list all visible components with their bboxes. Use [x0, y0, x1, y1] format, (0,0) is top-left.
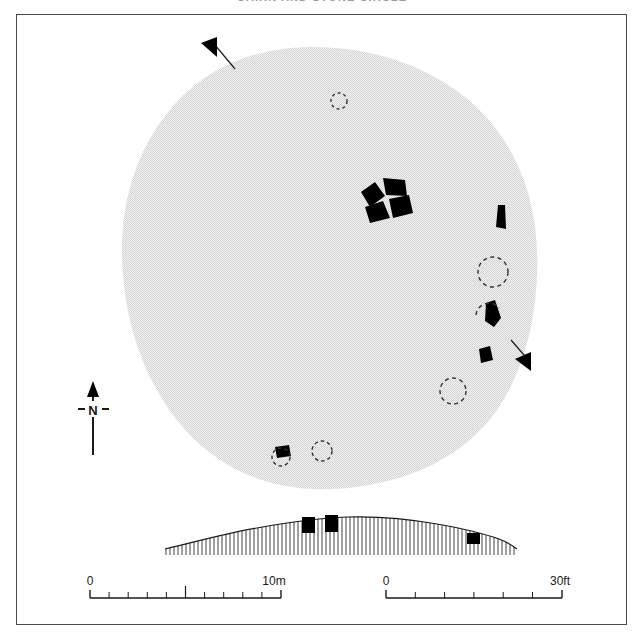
- scale-metric-start-label: 0: [87, 574, 94, 588]
- central-cist-stone-ne: [383, 178, 407, 196]
- north-arrow: N: [78, 381, 109, 455]
- figure-title: CAIRN AND STONE CIRCLE: [0, 0, 644, 3]
- north-arrow-label: N: [88, 403, 97, 418]
- plate-frame: N 0 10m: [16, 14, 627, 625]
- cairn-mound: [122, 47, 537, 489]
- scale-imperial-start-label: 0: [383, 574, 390, 588]
- mound-profile-section: [165, 515, 517, 555]
- circle-stone-south: [275, 445, 291, 458]
- scale-bar-metric: 0 10m: [87, 574, 286, 598]
- section-stone-far-right: [467, 533, 480, 544]
- site-plan-drawing: N 0 10m: [17, 15, 628, 626]
- section-stone-right-of-centre: [325, 515, 338, 532]
- section-stone-left: [302, 517, 315, 533]
- scale-metric-end-label: 10m: [262, 574, 285, 588]
- scale-imperial-end-label: 30ft: [550, 574, 571, 588]
- scale-bar-imperial: 0 30ft: [383, 574, 571, 598]
